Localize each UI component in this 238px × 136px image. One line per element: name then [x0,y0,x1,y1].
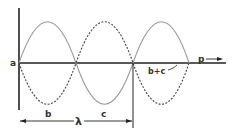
arrowhead-left-icon [20,119,26,123]
label-wave-b: b [45,109,52,119]
label-axis-p: p [198,54,205,64]
direction-arrow-icon [217,57,223,61]
sum-leader-line [168,65,177,70]
wave-interference-diagram: a p b+c b c λ [0,0,238,136]
label-wavelength: λ [75,115,82,128]
arrowhead-right-icon [126,119,132,123]
label-sum: b+c [148,67,165,76]
label-wave-c: c [101,109,106,119]
label-origin: a [10,58,16,68]
